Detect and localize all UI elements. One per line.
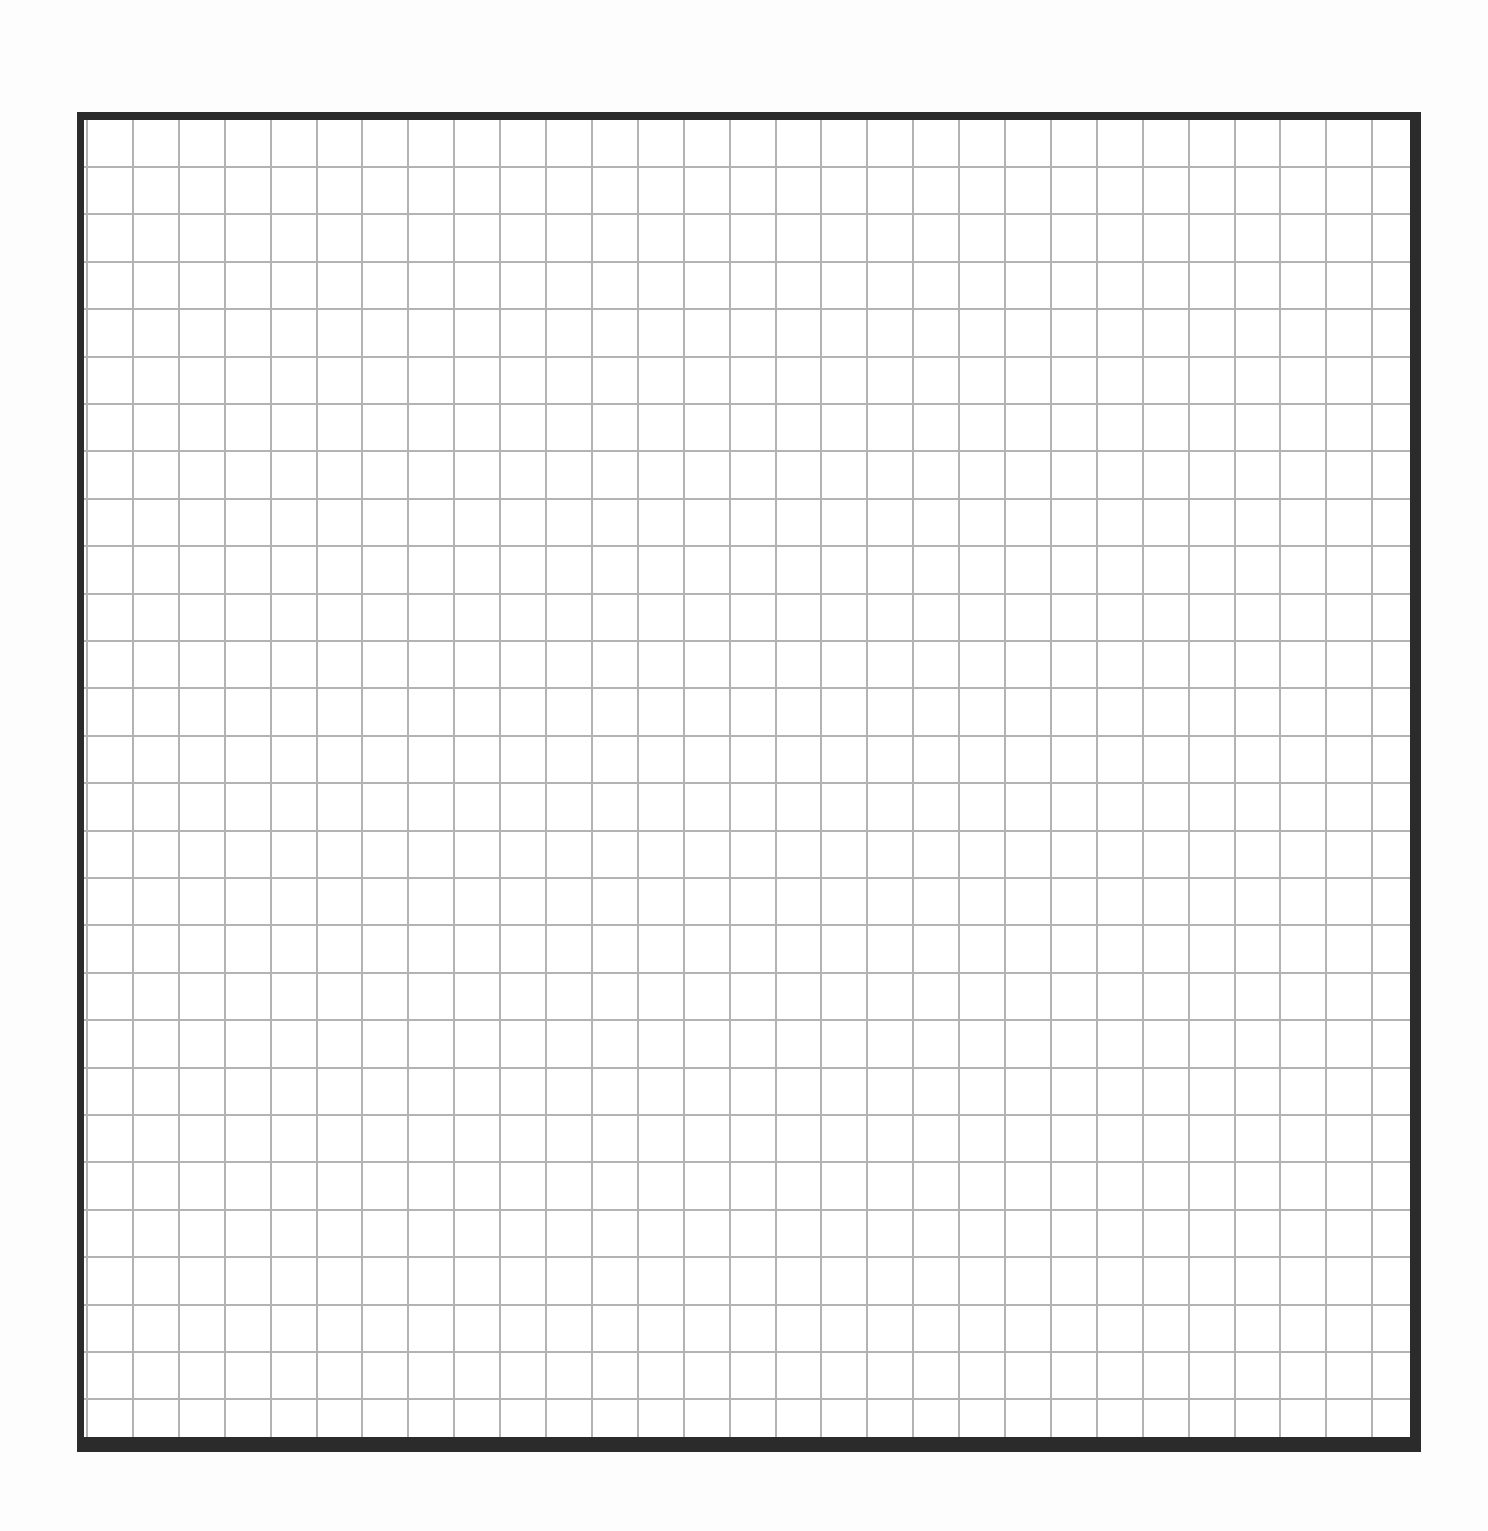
grid-vertical-line xyxy=(820,120,822,1437)
grid-vertical-line xyxy=(729,120,731,1437)
grid-vertical-line xyxy=(361,120,363,1437)
grid-frame xyxy=(77,112,1421,1452)
grid-vertical-line xyxy=(1325,120,1327,1437)
grid-horizontal-line xyxy=(84,403,1410,405)
grid-vertical-line xyxy=(912,120,914,1437)
grid-horizontal-line xyxy=(84,972,1410,974)
grid-vertical-line xyxy=(224,120,226,1437)
grid-vertical-line xyxy=(591,120,593,1437)
grid-vertical-line xyxy=(86,120,88,1437)
grid-vertical-line xyxy=(1096,120,1098,1437)
grid-horizontal-line xyxy=(84,356,1410,358)
grid-horizontal-line xyxy=(84,1067,1410,1069)
grid-horizontal-line xyxy=(84,1351,1410,1353)
grid-horizontal-line xyxy=(84,735,1410,737)
grid-vertical-line xyxy=(637,120,639,1437)
grid-horizontal-line xyxy=(84,1256,1410,1258)
grid-horizontal-line xyxy=(84,545,1410,547)
grid-horizontal-line xyxy=(84,924,1410,926)
grid-horizontal-line xyxy=(84,450,1410,452)
grid-horizontal-line xyxy=(84,830,1410,832)
grid-area xyxy=(84,120,1410,1437)
grid-vertical-line xyxy=(316,120,318,1437)
grid-horizontal-line xyxy=(84,498,1410,500)
grid-vertical-line xyxy=(545,120,547,1437)
grid-horizontal-line xyxy=(84,877,1410,879)
grid-vertical-line xyxy=(499,120,501,1437)
grid-horizontal-line xyxy=(84,1161,1410,1163)
grid-vertical-line xyxy=(1004,120,1006,1437)
grid-horizontal-line xyxy=(84,1304,1410,1306)
grid-horizontal-line xyxy=(84,261,1410,263)
grid-vertical-line xyxy=(1371,120,1373,1437)
grid-vertical-line xyxy=(1234,120,1236,1437)
grid-vertical-line xyxy=(1188,120,1190,1437)
grid-horizontal-line xyxy=(84,687,1410,689)
grid-vertical-line xyxy=(958,120,960,1437)
grid-horizontal-line xyxy=(84,213,1410,215)
grid-horizontal-line xyxy=(84,1398,1410,1400)
grid-vertical-line xyxy=(270,120,272,1437)
grid-vertical-line xyxy=(1050,120,1052,1437)
grid-horizontal-line xyxy=(84,782,1410,784)
grid-vertical-line xyxy=(407,120,409,1437)
grid-vertical-line xyxy=(178,120,180,1437)
grid-horizontal-line xyxy=(84,593,1410,595)
grid-horizontal-line xyxy=(84,166,1410,168)
grid-vertical-line xyxy=(132,120,134,1437)
grid-horizontal-line xyxy=(84,1019,1410,1021)
grid-vertical-line xyxy=(453,120,455,1437)
grid-vertical-line xyxy=(1279,120,1281,1437)
grid-vertical-line xyxy=(775,120,777,1437)
grid-horizontal-line xyxy=(84,1114,1410,1116)
grid-horizontal-line xyxy=(84,308,1410,310)
grid-vertical-line xyxy=(683,120,685,1437)
grid-vertical-line xyxy=(866,120,868,1437)
grid-horizontal-line xyxy=(84,640,1410,642)
grid-horizontal-line xyxy=(84,1209,1410,1211)
grid-vertical-line xyxy=(1142,120,1144,1437)
graph-paper-sheet xyxy=(0,0,1488,1531)
